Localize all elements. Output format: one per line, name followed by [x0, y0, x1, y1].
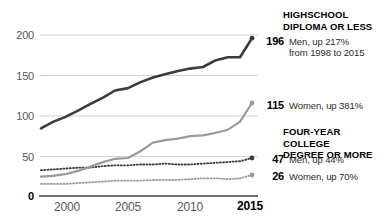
- series-men-hs-line: [41, 38, 252, 128]
- y-tick-150: 150: [4, 70, 34, 82]
- legend-heading-highschool: HIGHSCHOOL DIPLOMA OR LESS: [283, 9, 372, 32]
- gridlines: [40, 35, 258, 157]
- legend-text-men-college-line1: Men, up 44%: [289, 154, 344, 165]
- y-tick-100: 100: [4, 110, 34, 122]
- y-tick-200: 200: [4, 29, 34, 41]
- y-tick-50: 50: [4, 151, 34, 163]
- endpoint-marker-women-hs: [250, 101, 255, 106]
- x-tick-2010: 2010: [168, 200, 212, 214]
- series-men-college-line: [41, 158, 252, 170]
- chart-container: 200 150 100 50 0 2000 2005 2010 2015 HIG…: [0, 0, 388, 223]
- series-women-college-line: [41, 175, 252, 184]
- legend-text-women-college-line1: Women, up 70%: [289, 171, 358, 182]
- legend-text-women-hs: Women, up 381%: [289, 100, 363, 111]
- legend-heading-highschool-line1: HIGHSCHOOL: [283, 9, 372, 21]
- legend-heading-highschool-line2: DIPLOMA OR LESS: [283, 21, 372, 33]
- endpoint-marker-women-college: [250, 173, 255, 178]
- legend-heading-college-line1: FOUR-YEAR COLLEGE: [283, 126, 388, 149]
- legend-text-women-hs-line1: Women, up 381%: [289, 100, 363, 111]
- legend-value-men-hs: 196: [258, 35, 284, 47]
- legend-text-men-hs-line1: Men, up 217%: [289, 36, 364, 47]
- legend-value-women-hs: 115: [258, 99, 284, 111]
- legend-text-men-hs-line2: from 1998 to 2015: [289, 47, 364, 58]
- x-tick-2000: 2000: [45, 200, 89, 214]
- line-chart-plot: [0, 0, 388, 223]
- x-tick-2005: 2005: [106, 200, 150, 214]
- y-tick-0: 0: [4, 190, 34, 202]
- legend-value-women-college: 26: [258, 170, 284, 182]
- endpoint-marker-men-hs: [250, 36, 255, 41]
- legend-text-men-hs: Men, up 217% from 1998 to 2015: [289, 36, 364, 58]
- legend-text-men-college: Men, up 44%: [289, 154, 344, 165]
- legend-text-women-college: Women, up 70%: [289, 171, 358, 182]
- endpoint-marker-men-college: [250, 156, 255, 161]
- x-tick-2015: 2015: [228, 199, 272, 213]
- legend-value-men-college: 47: [258, 153, 284, 165]
